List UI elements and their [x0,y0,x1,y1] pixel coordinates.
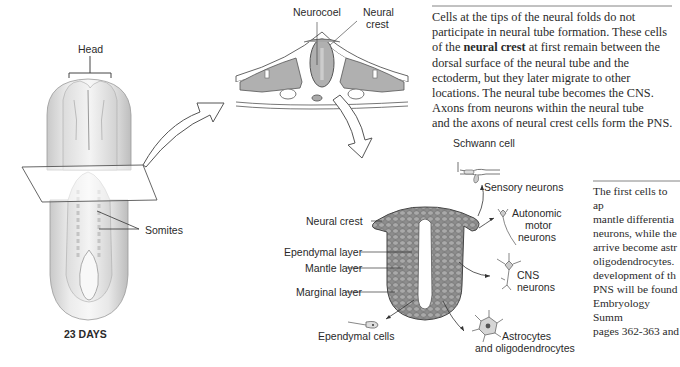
caption-top-line: participate in neural tube formation. Th… [432,25,672,40]
cns-neurons-label-2: neurons [517,281,555,293]
schwann-cell-drawing [458,162,500,183]
caption-top-line: dorsal surface of the neural tube and th… [432,56,672,71]
autonomic-label-1: Autonomic [512,207,562,219]
section-plane [22,165,157,202]
caption-right-line: mantle differentia [593,212,680,226]
caption-top-line: Cells at the tips of the neural folds do… [432,10,672,25]
caption-top-line: and the axons of neural crest cells form… [432,116,672,131]
caption-right-line: development of th [593,268,680,282]
somites-label: Somites [145,224,183,236]
caption-right-line: oligodendrocytes. [593,254,680,268]
marginal-layer-label: Marginal layer [296,286,362,298]
caption-right: The first cells to ap mantle differentia… [593,184,680,338]
caption-top: Cells at the tips of the neural folds do… [432,10,672,132]
schwann-cell-label: Schwann cell [453,137,515,149]
astrocyte-drawing [472,310,503,342]
embryo-upper [47,79,131,170]
head-label: Head [78,43,103,55]
caption-right-line: PNS will be found [593,282,680,296]
caption-top-line: ectoderm, but they later migrate to othe… [432,71,672,86]
astrocytes-label-2: and oligodendrocytes [475,342,575,354]
caption-top-line: locations. The neural tube becomes the C… [432,86,672,101]
age-label: 23 DAYS [64,328,107,340]
mantle-layer-label: Mantle layer [305,262,362,274]
caption-right-line: pages 362-363 and [593,324,680,338]
ependymal-layer-label: Ependymal layer [284,246,362,258]
caption-top-line: of the neural crest at first remain betw… [432,40,672,55]
neural-crest-term: neural crest [463,40,525,54]
ependymal-cell-drawing [348,321,378,328]
caption-right-line: arrive become astr [593,240,680,254]
head-bracket [69,56,111,78]
astrocytes-label-1: Astrocytes [502,330,551,342]
autonomic-label-3: neurons [518,231,556,243]
autonomic-label-2: motor [525,219,552,231]
arrow-to-cross-section [143,103,224,167]
caption-right-line: neurons, while the [593,226,680,240]
neurocoel-label: Neurocoel [293,6,341,18]
caption-top-line: Axons from neurons within the neural tub… [432,101,672,116]
caption-right-line: Embryology Summ [593,296,680,324]
caption-right-line: The first cells to ap [593,184,680,212]
neural-crest-label-top: Neural [363,6,394,18]
neural-tube [345,185,494,331]
sensory-neurons-label: Sensory neurons [484,181,563,193]
ependymal-cells-label: Ependymal cells [318,330,394,342]
neural-crest-label: Neural crest [306,215,363,227]
cross-section [236,21,408,109]
neural-crest-label-bottom: crest [366,18,389,30]
cns-neurons-label-1: CNS [517,269,539,281]
